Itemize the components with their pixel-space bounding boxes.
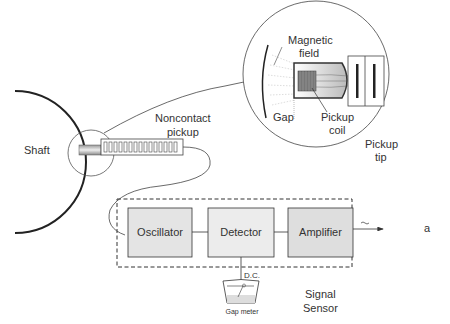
pickup-tip [348,56,384,106]
pickup-coil-label-line2: coil [329,124,346,136]
shaft-label: Shaft [24,144,50,156]
pickup-coil-label-line1: Pickup [321,111,354,123]
oscillator-label: Oscillator [128,226,192,238]
signal-sensor-label-line2: Sensor [303,302,338,314]
pickup-label-line2: pickup [167,126,199,138]
output-label: a [424,222,430,234]
amplifier-label: Amplifier [288,226,353,238]
magnetic-field-label-line1: Magnetic [288,34,333,46]
gap-meter [223,280,259,304]
pickup-body [101,139,183,155]
dc-label: D.C. [244,270,260,282]
pickup-tip-label-line2: tip [375,151,387,163]
gap-meter-label: Gap meter [222,306,262,318]
gap-label: Gap [273,111,294,123]
detector-label: Detector [208,226,274,238]
pickup-label-line1: Noncontact [155,112,211,124]
signal-sensor-label-line1: Signal [305,288,336,300]
magnetic-field-label-line2: field [299,47,319,59]
pickup-rod [79,145,101,155]
shaft [15,91,86,233]
pickup-tip-label-line1: Pickup [365,138,398,150]
